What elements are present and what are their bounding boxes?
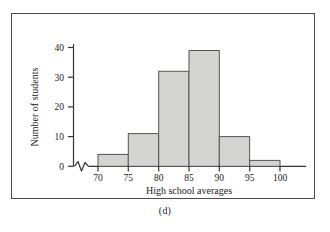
y-tick-group [68, 48, 74, 167]
y-axis-title: Number of students [29, 67, 40, 146]
bar-group [98, 51, 280, 167]
bar-90-95 [219, 137, 249, 167]
x-tick-label-85: 85 [184, 173, 194, 183]
bar-80-85 [159, 71, 189, 166]
y-tick-label-0: 0 [59, 162, 64, 172]
x-axis-title: High school averages [146, 185, 232, 196]
figure-caption: (d) [0, 205, 330, 216]
axis-break-icon [75, 162, 89, 172]
y-tick-label-20: 20 [55, 102, 65, 112]
histogram-chart: Number of students 40 30 20 10 0 [0, 0, 330, 232]
x-tick-group [98, 166, 280, 171]
x-tick-label-95: 95 [245, 173, 255, 183]
bar-85-90 [189, 51, 219, 167]
y-tick-label-10: 10 [55, 132, 65, 142]
x-tick-label-100: 100 [273, 173, 288, 183]
x-tick-label-90: 90 [215, 173, 225, 183]
bar-70-75 [98, 154, 128, 166]
y-tick-label-40: 40 [55, 43, 65, 53]
y-tick-label-30: 30 [55, 73, 65, 83]
x-tick-label-80: 80 [154, 173, 164, 183]
x-tick-label-75: 75 [124, 173, 134, 183]
bar-75-80 [128, 134, 158, 167]
figure-container: Number of students 40 30 20 10 0 [0, 0, 330, 232]
x-tick-label-70: 70 [93, 173, 103, 183]
bar-95-100 [250, 160, 280, 166]
